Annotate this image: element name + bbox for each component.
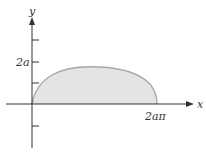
x-axis-arrow-icon: [186, 101, 194, 107]
y-axis-arrow-icon: [29, 17, 35, 25]
y-axis-label: y: [28, 5, 36, 18]
shaded-region: [32, 67, 157, 104]
x-tick-label: 2aπ: [144, 110, 167, 123]
y-tick-label: 2a: [15, 56, 30, 69]
cycloid-diagram: y x 2a 2aπ: [0, 0, 206, 156]
x-axis-label: x: [197, 98, 204, 111]
